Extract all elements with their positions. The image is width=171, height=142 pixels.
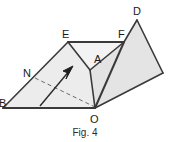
geometry-figure: B N E A F D O Fig. 4 [0, 0, 171, 142]
label-N: N [23, 67, 31, 79]
figure-container: B N E A F D O Fig. 4 [0, 0, 171, 142]
label-A: A [94, 53, 102, 65]
label-E: E [62, 28, 69, 40]
label-F: F [118, 28, 125, 40]
figure-caption: Fig. 4 [72, 127, 97, 138]
label-D: D [133, 5, 141, 17]
figure-faces [3, 20, 163, 108]
label-B: B [0, 97, 6, 109]
label-O: O [90, 113, 99, 125]
